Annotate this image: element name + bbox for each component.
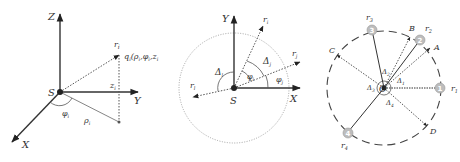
projection-point xyxy=(118,121,121,124)
x-axis xyxy=(12,92,60,142)
r3-label: r3 xyxy=(366,13,373,23)
origin-label: S xyxy=(48,87,55,98)
origin-point xyxy=(57,89,63,95)
ray-r3 xyxy=(372,30,384,88)
ray-r4 xyxy=(348,88,384,132)
r-i-label: ri xyxy=(263,15,269,25)
node-1: 1 xyxy=(435,83,445,93)
ray-A xyxy=(384,48,430,88)
phi-label: φi xyxy=(62,109,70,119)
panel-sector-partition: 1 2 3 4 O r1 r2 r3 r4 A B C D Δ1 Δ2 Δ3 Δ… xyxy=(327,13,458,151)
r-j-label: rj xyxy=(292,49,298,60)
vector-label: ri xyxy=(114,40,120,50)
r1-label: r1 xyxy=(451,84,458,94)
delta-2-label: Δ2 xyxy=(381,68,390,77)
diagram-canvas: Z Y X S ri qi(ρi,φi,zi zi ρi φi Y X S ri… xyxy=(0,0,460,162)
origin-point xyxy=(231,85,237,91)
z-label: zi xyxy=(109,81,116,91)
delta-l-label: Δl xyxy=(214,67,224,78)
svg-text:4: 4 xyxy=(346,130,351,138)
node-3: 3 xyxy=(367,25,377,35)
delta-3-label: Δ3 xyxy=(366,84,375,93)
phi-j-label: φj xyxy=(276,75,284,86)
x-axis-label: X xyxy=(21,139,30,150)
svg-text:2: 2 xyxy=(418,37,423,45)
r2-label: r2 xyxy=(425,24,432,34)
node-4: 4 xyxy=(343,128,353,138)
center-label: O xyxy=(379,84,387,94)
y-axis-label: Y xyxy=(134,95,142,106)
svg-text:1: 1 xyxy=(438,85,443,93)
x-axis-label: X xyxy=(289,93,298,104)
point-label: qi(ρi,φi,zi xyxy=(124,52,159,62)
delta-4-label: Δ4 xyxy=(385,99,394,108)
y-axis-label: Y xyxy=(222,13,230,24)
phi-j-arc xyxy=(266,76,268,88)
phi-i-label: φi xyxy=(247,72,255,82)
r4-label: r4 xyxy=(341,141,348,151)
point-A-label: A xyxy=(433,43,440,52)
svg-text:3: 3 xyxy=(370,27,375,35)
delta-1-label: Δ1 xyxy=(396,77,405,86)
delta-j-label: Δj xyxy=(262,56,272,68)
r-l-label: rl xyxy=(190,81,196,91)
point-C-label: C xyxy=(329,46,335,55)
point-D-label: D xyxy=(429,127,437,136)
origin-label: S xyxy=(230,95,237,106)
panel-angular-difference: Y X S ri rj rl Δl Δj φi φj xyxy=(179,13,300,143)
point-B-label: B xyxy=(408,24,415,33)
z-axis-label: Z xyxy=(47,11,56,22)
node-2: 2 xyxy=(415,35,425,45)
panel-cylindrical-coordinates: Z Y X S ri qi(ρi,φi,zi zi ρi φi xyxy=(12,11,159,150)
vector-r-l xyxy=(193,88,234,97)
ray-C xyxy=(337,55,384,88)
rho-label: ρi xyxy=(83,116,91,126)
